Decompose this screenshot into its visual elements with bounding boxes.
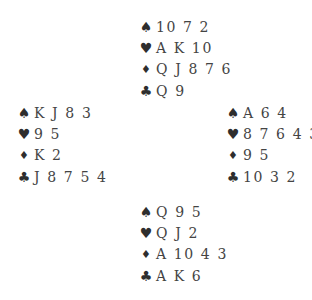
spade-icon: ♠: [137, 20, 155, 34]
heart-icon: ♥: [137, 41, 155, 55]
north-diamonds-row: ♦ Q J 8 7 6: [137, 59, 232, 80]
west-clubs-row: ♣ J 8 7 5 4: [15, 166, 107, 187]
north-spades-cards: 10 7 2: [156, 19, 210, 35]
south-hearts-row: ♥ Q J 2: [137, 222, 228, 243]
diamond-icon: ♦: [137, 249, 155, 260]
east-diamonds-cards: 9 5: [243, 147, 270, 163]
east-hearts-row: ♥ 8 7 6 4 3: [224, 123, 312, 144]
diamond-icon: ♦: [224, 150, 242, 161]
club-icon: ♣: [15, 170, 33, 184]
heart-icon: ♥: [137, 226, 155, 240]
west-hand: ♠ K J 8 3 ♥ 9 5 ♦ K 2 ♣ J 8 7 5 4: [15, 102, 107, 187]
diamond-icon: ♦: [15, 150, 33, 161]
spade-icon: ♠: [224, 106, 242, 120]
heart-icon: ♥: [15, 127, 33, 141]
club-icon: ♣: [224, 170, 242, 184]
spade-icon: ♠: [137, 205, 155, 219]
south-spades-cards: Q 9 5: [156, 204, 202, 220]
east-hand: ♠ A 6 4 ♥ 8 7 6 4 3 ♦ 9 5 ♣ 10 3 2: [224, 102, 312, 187]
south-clubs-cards: A K 6: [156, 268, 202, 284]
spade-icon: ♠: [15, 106, 33, 120]
south-diamonds-row: ♦ A 10 4 3: [137, 244, 228, 265]
north-hearts-row: ♥ A K 10: [137, 37, 232, 58]
north-clubs-row: ♣ Q 9: [137, 80, 232, 101]
west-spades-row: ♠ K J 8 3: [15, 102, 107, 123]
north-hand: ♠ 10 7 2 ♥ A K 10 ♦ Q J 8 7 6 ♣ Q 9: [137, 16, 232, 101]
south-hearts-cards: Q J 2: [156, 225, 199, 241]
west-diamonds-cards: K 2: [34, 147, 63, 163]
south-clubs-row: ♣ A K 6: [137, 265, 228, 286]
club-icon: ♣: [137, 84, 155, 98]
east-diamonds-row: ♦ 9 5: [224, 145, 312, 166]
north-spades-row: ♠ 10 7 2: [137, 16, 232, 37]
north-hearts-cards: A K 10: [156, 40, 213, 56]
north-clubs-cards: Q 9: [156, 83, 186, 99]
heart-icon: ♥: [224, 127, 242, 141]
south-hand: ♠ Q 9 5 ♥ Q J 2 ♦ A 10 4 3 ♣ A K 6: [137, 201, 228, 286]
east-spades-cards: A 6 4: [243, 105, 288, 121]
diamond-icon: ♦: [137, 64, 155, 75]
club-icon: ♣: [137, 269, 155, 283]
west-clubs-cards: J 8 7 5 4: [34, 169, 107, 185]
west-diamonds-row: ♦ K 2: [15, 145, 107, 166]
west-hearts-cards: 9 5: [34, 126, 61, 142]
west-spades-cards: K J 8 3: [34, 105, 92, 121]
east-clubs-row: ♣ 10 3 2: [224, 166, 312, 187]
east-spades-row: ♠ A 6 4: [224, 102, 312, 123]
north-diamonds-cards: Q J 8 7 6: [156, 61, 232, 77]
east-clubs-cards: 10 3 2: [243, 169, 297, 185]
west-hearts-row: ♥ 9 5: [15, 123, 107, 144]
south-diamonds-cards: A 10 4 3: [156, 246, 228, 262]
east-hearts-cards: 8 7 6 4 3: [243, 126, 312, 142]
south-spades-row: ♠ Q 9 5: [137, 201, 228, 222]
